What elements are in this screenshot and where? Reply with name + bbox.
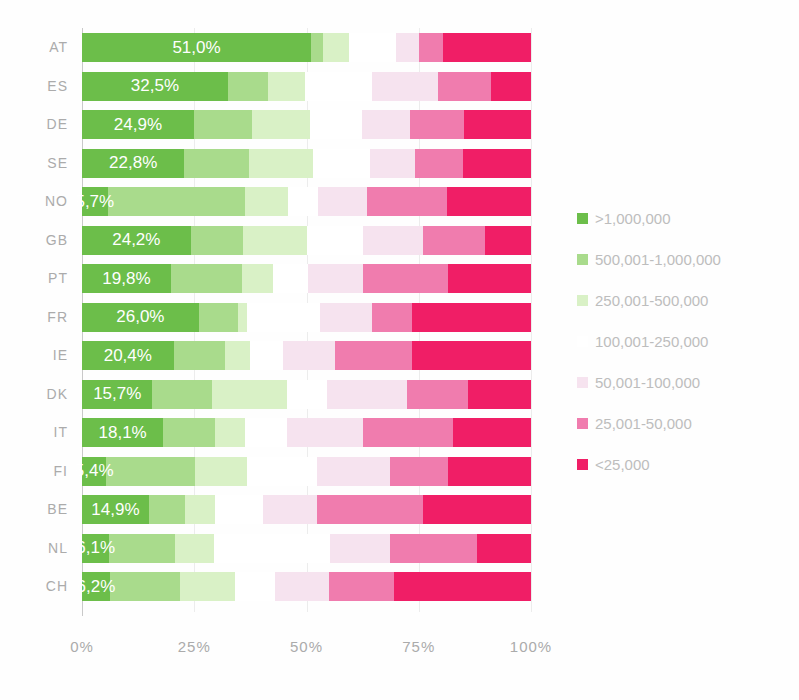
country-label: NL <box>0 534 68 563</box>
bar-row: 15,7% <box>82 380 531 409</box>
legend-swatch <box>577 213 588 224</box>
bar-segment <box>485 226 531 255</box>
bar-segment <box>412 303 531 332</box>
bar-segment <box>252 110 310 139</box>
bar-segment <box>174 341 225 370</box>
bar-segment <box>82 264 171 293</box>
legend-item: <25,000 <box>577 458 721 470</box>
bar-segment <box>275 572 330 601</box>
country-label: SE <box>0 149 68 178</box>
country-label: PT <box>0 264 68 293</box>
bar-segment <box>82 341 174 370</box>
legend-label: 500,001-1,000,000 <box>595 251 721 268</box>
bar-segment <box>407 380 468 409</box>
bar-segment <box>149 495 185 524</box>
legend-label: 250,001-500,000 <box>595 292 708 309</box>
bar-row: 26,0% <box>82 303 531 332</box>
legend-swatch <box>577 418 588 429</box>
bar-segment <box>363 264 448 293</box>
bar-segment <box>318 187 367 216</box>
bar-segment <box>313 149 370 178</box>
country-labels-column: ATESDESENOGBPTFRIEDKITFIBENLCH <box>0 33 68 611</box>
bar-segment <box>394 572 530 601</box>
bar-segment <box>184 149 248 178</box>
legend-swatch <box>577 254 588 265</box>
legend-item: 100,001-250,000 <box>577 335 721 347</box>
legend-item: 250,001-500,000 <box>577 294 721 306</box>
bar-segment <box>82 418 163 447</box>
bar-segment <box>372 303 412 332</box>
bar-segment <box>370 149 415 178</box>
bar-segment <box>191 226 243 255</box>
bar-segment <box>247 457 317 486</box>
bar-segment <box>372 72 437 101</box>
legend-item: >1,000,000 <box>577 212 721 224</box>
bar-segment <box>287 418 363 447</box>
legend: >1,000,000500,001-1,000,000250,001-500,0… <box>577 212 721 499</box>
country-label: BE <box>0 495 68 524</box>
bar-segment <box>363 226 423 255</box>
bar-segment <box>245 187 288 216</box>
bar-segment <box>185 495 215 524</box>
x-tick-label: 50% <box>290 638 323 655</box>
bar-segment <box>308 264 363 293</box>
bar-segment <box>349 33 396 62</box>
bar-row: 24,9% <box>82 110 531 139</box>
bar-segment <box>464 110 530 139</box>
bar-segment <box>491 72 531 101</box>
country-label: FI <box>0 457 68 486</box>
bar-segment <box>199 303 238 332</box>
legend-label: >1,000,000 <box>595 210 671 227</box>
bar-segment <box>363 418 453 447</box>
bar-segment <box>106 457 195 486</box>
country-label: FR <box>0 303 68 332</box>
bar-segment <box>163 418 215 447</box>
bar-segment <box>448 264 531 293</box>
legend-swatch <box>577 377 588 388</box>
legend-label: 100,001-250,000 <box>595 333 708 350</box>
bar-segment <box>317 495 423 524</box>
bar-segment <box>367 187 447 216</box>
bar-segment <box>247 303 320 332</box>
bar-segment <box>243 226 307 255</box>
bar-row: 18,1% <box>82 418 531 447</box>
bar-segment <box>273 264 308 293</box>
x-tick-label: 100% <box>510 638 552 655</box>
bar-segment <box>263 495 317 524</box>
bar-segment <box>108 187 245 216</box>
bar-segment <box>307 226 363 255</box>
bar-segment <box>82 72 228 101</box>
bar-row: 22,8% <box>82 149 531 178</box>
bar-row: 5,4% <box>82 457 531 486</box>
bar-segment <box>419 33 443 62</box>
legend-label: 25,001-50,000 <box>595 415 692 432</box>
bar-segment <box>180 572 235 601</box>
bar-segment <box>109 534 175 563</box>
bar-segment <box>82 380 152 409</box>
country-label: ES <box>0 72 68 101</box>
country-label: AT <box>0 33 68 62</box>
bar-row: 6,2% <box>82 572 531 601</box>
bar-segment <box>82 110 194 139</box>
bar-segment <box>323 33 349 62</box>
bar-segment <box>390 534 477 563</box>
x-tick-label: 25% <box>178 638 211 655</box>
x-tick-label: 75% <box>402 638 435 655</box>
bar-segment <box>329 572 394 601</box>
bar-segment <box>249 149 314 178</box>
legend-label: <25,000 <box>595 456 650 473</box>
bar-segment <box>415 149 463 178</box>
legend-swatch <box>577 336 588 347</box>
bar-segment <box>82 457 106 486</box>
bar-segment <box>447 187 531 216</box>
country-label: DK <box>0 380 68 409</box>
bar-segment <box>335 341 412 370</box>
bar-segment <box>330 534 390 563</box>
gridline <box>531 28 532 612</box>
bar-segment <box>82 572 110 601</box>
legend-swatch <box>577 459 588 470</box>
country-label: IT <box>0 418 68 447</box>
bar-segment <box>443 33 531 62</box>
bar-segment <box>238 303 247 332</box>
bar-segment <box>423 495 531 524</box>
